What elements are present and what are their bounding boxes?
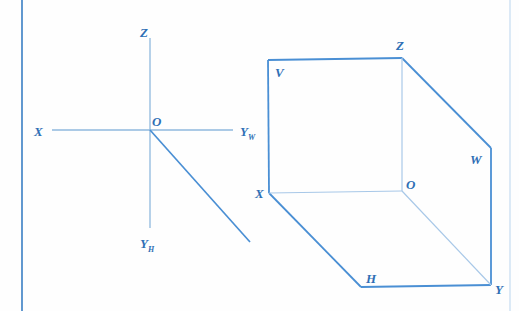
plane-label-v: V <box>275 65 285 80</box>
edge-z-w <box>402 58 491 148</box>
edge-vtopleft-x <box>268 60 269 193</box>
vertex-label-x: X <box>254 186 264 201</box>
left-label-yh: Y H <box>140 236 155 254</box>
left-label-yw: Y W <box>240 124 256 142</box>
edge-o-y-axis <box>402 191 491 285</box>
plane-label-w: W <box>470 152 483 167</box>
edge-hbottomleft-y <box>361 285 491 287</box>
left-label-yw-subscript: W <box>248 133 256 142</box>
y-diagonal-axis-line <box>150 130 250 242</box>
left-label-x: X <box>33 124 43 139</box>
three-projection-planes: V Z W Y H X O <box>254 38 504 297</box>
edge-x-hbottomleft <box>269 193 361 287</box>
left-label-z: Z <box>139 25 148 40</box>
vertex-label-o: O <box>406 177 416 192</box>
diagram-svg: Z X O Y W Y H <box>0 0 519 311</box>
plane-label-h: H <box>365 271 377 286</box>
left-label-origin: O <box>152 114 162 129</box>
left-label-yh-subscript: H <box>147 245 155 254</box>
vertex-label-y: Y <box>495 282 504 297</box>
unfolded-axis-system: Z X O Y W Y H <box>33 25 256 254</box>
edge-vtopleft-z <box>268 58 402 60</box>
edge-x-o-axis <box>269 191 402 193</box>
vertex-label-z: Z <box>395 38 404 53</box>
figure-canvas: Z X O Y W Y H <box>0 0 519 311</box>
